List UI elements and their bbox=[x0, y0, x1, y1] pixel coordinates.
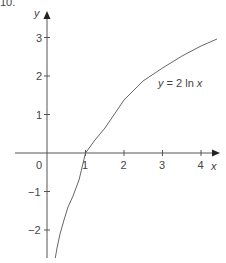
x-axis-label: x bbox=[210, 160, 217, 172]
x-axis-arrow-icon bbox=[212, 150, 220, 157]
y-tick-label-1: 1 bbox=[36, 109, 42, 121]
x-tick-label-3: 3 bbox=[159, 159, 165, 171]
chart: 0 1 2 3 4 x 3 2 1 −1 −2 y y = 2 ln x bbox=[0, 0, 226, 263]
curve-label-eq: = 2 ln bbox=[164, 77, 197, 89]
curve-label-x: x bbox=[196, 77, 203, 89]
x-tick-label-4: 4 bbox=[198, 159, 204, 171]
y-tick-label-neg1: −1 bbox=[28, 186, 41, 198]
y-tick-label-neg2: −2 bbox=[28, 224, 41, 236]
y-tick-label-2: 2 bbox=[36, 70, 42, 82]
curve-label: y = 2 ln x bbox=[157, 77, 203, 89]
origin-label: 0 bbox=[36, 159, 42, 171]
y-tick-label-3: 3 bbox=[36, 32, 42, 44]
x-tick-label-2: 2 bbox=[121, 159, 127, 171]
y-axis-label: y bbox=[33, 7, 41, 19]
y-axis-arrow-icon bbox=[44, 11, 51, 19]
curve-2lnx bbox=[55, 39, 217, 258]
